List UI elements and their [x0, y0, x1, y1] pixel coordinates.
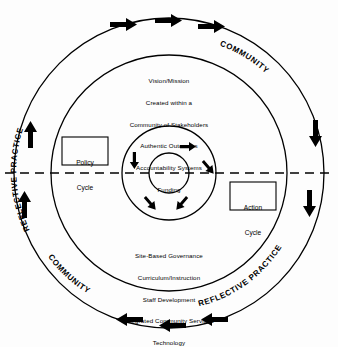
upper-line-1: Vision/Mission	[84, 77, 254, 84]
policy-cycle-line-2: Cycle	[62, 184, 108, 192]
lower-line-4: Integrated Community Services	[84, 317, 254, 324]
diagram-canvas: REFLECTIVE PRACTICE COMMUNITY COMMUNITY …	[0, 0, 338, 347]
upper-line-2: Created within a	[84, 99, 254, 106]
lower-line-5: Technology	[84, 339, 254, 346]
upper-line-6: Funding	[84, 186, 254, 193]
upper-line-5: Accountability Systems	[84, 164, 254, 171]
policy-cycle-line-1: Policy	[62, 159, 108, 167]
outer-arrow-top-1	[110, 18, 137, 31]
outer-arrow-right-1	[309, 120, 322, 147]
upper-text-block: Vision/Mission Created within a Communit…	[84, 62, 254, 208]
lower-line-3: Staff Development	[84, 296, 254, 303]
action-cycle-line-2: Cycle	[230, 229, 276, 237]
upper-line-4: Authentic Outcomes	[84, 142, 254, 149]
policy-cycle-label: Policy Cycle	[62, 143, 108, 209]
action-cycle-label: Action Cycle	[230, 188, 276, 254]
lower-line-1: Site-Based Governance	[84, 252, 254, 259]
upper-line-3: Community of Stakeholders	[84, 121, 254, 128]
lower-line-2: Curriculum/Instruction	[84, 274, 254, 281]
lower-text-block: Site-Based Governance Curriculum/Instruc…	[84, 237, 254, 347]
outer-arrow-left-2	[24, 121, 37, 148]
outer-arrow-top-2	[155, 14, 182, 27]
outer-arrow-right-2	[303, 190, 316, 217]
action-cycle-line-1: Action	[230, 204, 276, 212]
